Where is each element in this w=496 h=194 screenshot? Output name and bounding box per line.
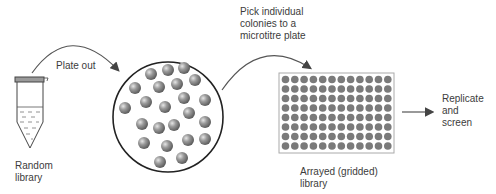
microtitre-plate-icon: [279, 73, 394, 153]
label-plate-out: Plate out: [56, 60, 95, 72]
label-arrayed-library: Arrayed (gridded) library: [300, 166, 378, 190]
label-replicate-screen: Replicate and screen: [442, 93, 484, 129]
petri-dish-icon: [113, 62, 223, 172]
tube-icon: [15, 77, 48, 148]
label-random-library: Random library: [15, 160, 53, 184]
label-pick-colonies: Pick individual colonies to a microtitre…: [240, 6, 306, 42]
